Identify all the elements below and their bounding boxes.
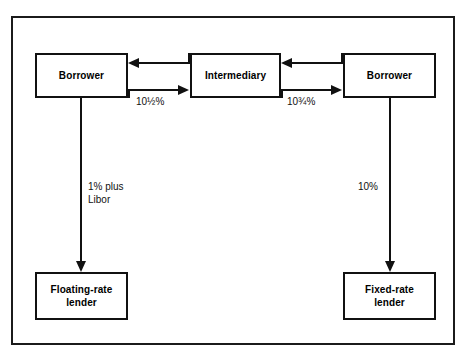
edge-label-floating-leg-line1: 1% plus	[88, 180, 124, 193]
edge-label-floating-leg-line2: Libor	[88, 193, 124, 206]
edge-label-floating-leg: 1% plus Libor	[88, 180, 124, 206]
arrow-left-into-borrower-left	[128, 58, 139, 68]
clipped-caption	[0, 0, 469, 5]
swap-diagram: Borrower Intermediary Borrower Floating-…	[0, 0, 469, 361]
edge-label-fixed-leg: 10%	[358, 180, 378, 193]
edge-left-borrower-to-floating-lender-line	[80, 98, 82, 264]
edge-left-borrower-to-intermediary-line	[128, 89, 179, 91]
arrow-left-into-intermediary-right	[281, 58, 292, 68]
arrow-down-into-floating-lender	[76, 261, 86, 272]
arrow-right-into-intermediary-left	[178, 85, 189, 95]
node-floating-rate-lender-label: Floating-rate lender	[51, 283, 113, 309]
node-borrower-right[interactable]: Borrower	[343, 53, 436, 98]
node-fixed-rate-lender-label-line2: lender	[374, 297, 405, 308]
edge-intermediary-to-right-borrower-line	[281, 89, 332, 91]
arrow-right-into-borrower-right	[331, 85, 342, 95]
edge-left-borrower-riser	[128, 89, 130, 98]
edge-intermediary-to-left-borrower-line	[139, 62, 190, 64]
arrow-down-into-fixed-lender	[385, 261, 395, 272]
edge-label-rate-right: 10¾%	[287, 95, 315, 108]
node-borrower-right-label: Borrower	[367, 69, 412, 82]
node-intermediary[interactable]: Intermediary	[190, 53, 281, 98]
edge-label-rate-left: 10½%	[136, 95, 164, 108]
edge-right-borrower-to-intermediary-line	[292, 62, 343, 64]
node-intermediary-label: Intermediary	[205, 69, 266, 82]
node-floating-rate-lender-label-line2: lender	[66, 297, 97, 308]
edge-right-borrower-to-fixed-lender-line	[389, 98, 391, 264]
node-fixed-rate-lender-label-line1: Fixed-rate	[365, 284, 414, 295]
edge-intermediary-right-riser	[281, 89, 283, 98]
node-fixed-rate-lender[interactable]: Fixed-rate lender	[343, 272, 436, 320]
node-fixed-rate-lender-label: Fixed-rate lender	[365, 283, 414, 309]
node-floating-rate-lender[interactable]: Floating-rate lender	[35, 272, 128, 320]
node-borrower-left-label: Borrower	[59, 69, 104, 82]
node-borrower-left[interactable]: Borrower	[35, 53, 128, 98]
node-floating-rate-lender-label-line1: Floating-rate	[51, 284, 113, 295]
